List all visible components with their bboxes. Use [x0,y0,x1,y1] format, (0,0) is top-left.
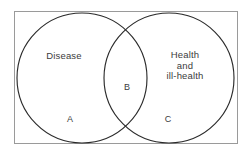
disease-circle [17,13,147,143]
region-label-a: A [62,114,78,125]
region-label-c: C [160,114,176,125]
health-set-label: Health and ill-health [155,50,215,82]
disease-set-label: Disease [36,51,92,62]
region-label-b: B [119,82,135,93]
venn-diagram-figure: Disease Health and ill-health A B C [0,0,252,155]
